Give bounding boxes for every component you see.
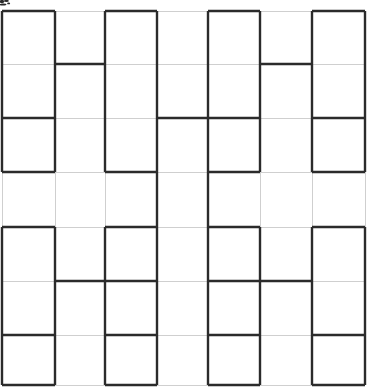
figure-canvas [0,0,372,391]
h-tree-path [2,11,365,385]
fractal-figure [0,0,372,391]
background-grid [2,11,365,385]
